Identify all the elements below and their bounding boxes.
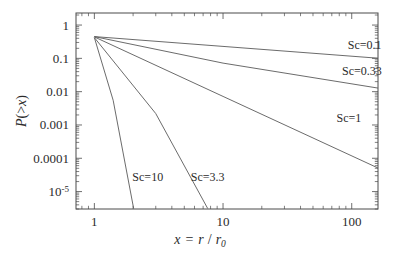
svg-text:P(>x): P(>x) [14,95,30,128]
tick-labels: 11010010.10.010.0010.000110-5 [33,18,361,229]
x-tick-label: 100 [342,214,362,229]
curve-label-sc-10: Sc=10 [132,170,163,184]
curve-label-sc-3-3: Sc=3.3 [191,170,225,184]
curve-sc-1 [94,37,378,168]
y-axis-title: P(>x) [14,95,30,128]
y-tick-label: 10-5 [49,184,70,200]
y-tick-label: 0.01 [46,84,69,99]
curve-sc-10 [94,38,133,209]
y-axis-title-gt: > [14,106,29,114]
y-tick-label: 0.1 [53,51,69,66]
x-axis-title-r: r [198,232,204,247]
x-axis-title-subscript-0: 0 [221,239,226,249]
x-axis-title: x=r/r0 [173,232,226,249]
x-tick-label: 1 [91,214,98,229]
y-tick-label: 0.0001 [33,151,69,166]
svg-text:x=r/r0: x=r/r0 [173,232,226,249]
curve-sc-0-33 [94,37,378,88]
curve-annotations: Sc=0.1Sc=0.33Sc=1Sc=3.3Sc=10 [132,38,381,184]
figure-container: 11010010.10.010.0010.000110-5 Sc=0.1Sc=0… [0,0,398,256]
y-axis-title-p: P [14,118,29,128]
curve-label-sc-0-33: Sc=0.33 [342,64,382,78]
y-tick-label: 0.001 [40,117,69,132]
x-axis-title-slash: / [208,232,212,247]
y-tick-label: 1 [63,18,70,33]
x-axis-title-x: x [173,232,181,247]
curve-sc-0-1 [94,37,378,59]
x-tick-label: 10 [217,214,230,229]
y-axis-title-paren-close: ) [14,95,30,100]
curve-label-sc-0-1: Sc=0.1 [348,38,382,52]
log-log-plot: 11010010.10.010.0010.000110-5 Sc=0.1Sc=0… [0,0,398,256]
curve-label-sc-1: Sc=1 [336,111,361,125]
x-axis-title-equals: = [185,232,193,247]
